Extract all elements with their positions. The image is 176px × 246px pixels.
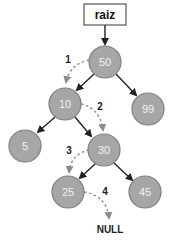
step-label-1: 1 <box>65 54 71 65</box>
node-10: 10 <box>49 88 81 120</box>
step-label-3: 3 <box>66 145 72 156</box>
svg-text:99: 99 <box>142 103 154 115</box>
svg-text:5: 5 <box>22 140 28 152</box>
null-label: NULL <box>97 224 124 235</box>
step-label-4: 4 <box>102 186 108 197</box>
node-5: 5 <box>9 130 41 162</box>
node-45: 45 <box>129 176 161 208</box>
svg-text:25: 25 <box>62 186 74 198</box>
svg-text:50: 50 <box>99 56 111 68</box>
step-label-2: 2 <box>97 101 103 112</box>
bst-diagram: raiz 1 2 3 4 50 10 99 5 30 <box>0 0 176 246</box>
node-50: 50 <box>89 46 121 78</box>
svg-text:30: 30 <box>98 144 110 156</box>
node-99: 99 <box>132 93 164 125</box>
root-pointer-box: raiz <box>84 4 126 25</box>
svg-text:45: 45 <box>139 186 151 198</box>
root-label: raiz <box>95 8 116 22</box>
node-25: 25 <box>52 176 84 208</box>
svg-text:10: 10 <box>59 98 71 110</box>
node-30: 30 <box>88 134 120 166</box>
